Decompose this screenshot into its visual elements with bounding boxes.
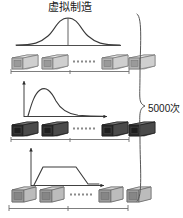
chart-right-skewed-distribution (24, 81, 107, 117)
measure-line-row-1 (11, 69, 129, 74)
machine-row-mid (12, 187, 151, 202)
skewed-curve-path (28, 89, 103, 117)
machine-row-dark (12, 122, 155, 136)
machine-light-1 (12, 55, 38, 69)
machine-mid-3 (99, 187, 123, 202)
machine-light-2 (42, 55, 68, 69)
machine-mid-4 (127, 187, 151, 202)
iteration-count-label: 5000次 (148, 100, 180, 115)
chart-normal-distribution (16, 18, 121, 46)
iteration-brace (137, 14, 145, 201)
machine-mid-2 (40, 187, 64, 202)
machine-light-4 (129, 55, 155, 69)
ellipsis-row-2 (73, 128, 95, 130)
machine-dark-3 (102, 122, 128, 136)
ellipsis-row-1 (73, 61, 95, 63)
machine-dark-4 (129, 122, 155, 136)
machine-dark-2 (42, 122, 68, 136)
machine-row-light (12, 55, 155, 69)
measure-line-row-2 (11, 137, 129, 142)
machine-dark-1 (12, 122, 38, 136)
virtual-manufacturing-diagram: 虚拟制造 (0, 0, 183, 218)
machine-mid-1 (12, 187, 36, 202)
trapezoid-curve-path (34, 167, 99, 185)
measure-line-row-3 (9, 205, 128, 211)
ellipsis-row-3 (70, 194, 92, 196)
machine-light-3 (102, 55, 128, 69)
chart-trapezoidal-distribution (31, 148, 104, 186)
